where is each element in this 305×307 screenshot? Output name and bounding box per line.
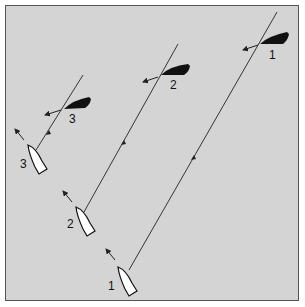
white-boat-2	[76, 207, 95, 236]
black-boat-2-arrow	[143, 77, 158, 82]
black-boat-2-label: 2	[170, 78, 177, 92]
black-boat-3-label: 3	[69, 112, 76, 126]
track-line-2	[84, 44, 178, 212]
black-boat-2	[161, 64, 190, 75]
track-line-1	[129, 12, 277, 270]
white-boat-1-label: 1	[108, 279, 115, 293]
white-boat-2-label: 2	[67, 217, 74, 231]
white-boat-1-arrow	[106, 249, 115, 260]
white-boat-2-arrow	[63, 191, 72, 202]
track-arrow-1	[191, 155, 196, 160]
white-boat-3-arrow	[15, 129, 24, 140]
white-boat-3-label: 3	[20, 157, 27, 171]
black-boat-1-label: 1	[269, 48, 276, 62]
white-boat-3	[28, 145, 47, 174]
white-boat-1	[118, 267, 137, 296]
track-line-3	[36, 75, 83, 150]
sailing-diagram: 1 2 3 1 2 3	[0, 0, 305, 307]
